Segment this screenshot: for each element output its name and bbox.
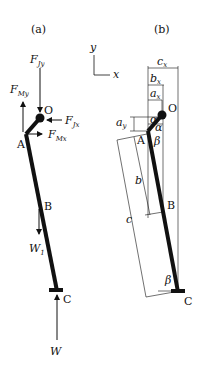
- y-axis-label: y: [89, 41, 97, 54]
- angle-beta-bottom: β: [164, 274, 171, 287]
- point-c-label: C: [63, 293, 71, 306]
- force-fmx-label: FMx: [47, 128, 67, 143]
- foot-c-b: [171, 289, 185, 293]
- point-a-label-b: A: [136, 134, 146, 147]
- dim-bx-label: bx: [150, 72, 161, 86]
- joint-o-b: [158, 111, 167, 120]
- force-fmy-label: FMy: [9, 83, 30, 98]
- force-w1-label: W1: [29, 242, 45, 257]
- dim-ax-label: ax: [150, 87, 161, 101]
- dim-c-bottom: [146, 292, 174, 297]
- point-b-label: B: [44, 200, 52, 213]
- force-fjx-label: FJx: [64, 114, 79, 129]
- foot-c: [49, 288, 63, 292]
- panel-a: (a) FJy FJx FMy FMx A O B C W1 W: [9, 23, 79, 358]
- dim-b-label: b: [135, 174, 142, 187]
- dim-cx-label: cx: [157, 55, 167, 69]
- force-fjy-label: FJy: [29, 53, 45, 68]
- panel-b: (b) cx bx ax ay b c α α β: [116, 23, 192, 308]
- point-o-label-b: O: [168, 102, 177, 115]
- point-a-label: A: [16, 138, 26, 151]
- point-c-label-b: C: [184, 295, 192, 308]
- mechanics-diagram: (a) FJy FJx FMy FMx A O B C W1 W y x: [0, 0, 205, 375]
- panel-b-label: (b): [154, 23, 170, 36]
- angle-alpha-2: α: [155, 121, 163, 134]
- panel-a-label: (a): [31, 23, 46, 36]
- point-o-label: O: [44, 104, 53, 117]
- x-axis-label: x: [113, 68, 120, 81]
- rod-ac: [26, 134, 57, 291]
- angle-beta-top: β: [153, 135, 160, 148]
- dim-ay-label: ay: [116, 116, 128, 130]
- dim-c-label: c: [126, 213, 132, 226]
- point-b-label-b: B: [167, 199, 175, 212]
- coordinate-axes: y x: [89, 41, 120, 81]
- force-w-label: W: [50, 345, 63, 358]
